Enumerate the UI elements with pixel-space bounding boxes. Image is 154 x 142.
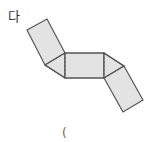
answer-mark: ( (62, 127, 67, 139)
rect-face-middle (65, 53, 104, 78)
prism-net-diagram (0, 0, 154, 142)
